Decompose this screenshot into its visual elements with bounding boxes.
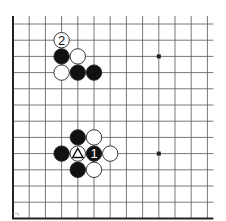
go-board-diagram: 21 <box>0 0 226 221</box>
white-stone: 2 <box>54 33 69 48</box>
diagram-caption: ᄀ <box>12 210 20 221</box>
black-stone <box>54 49 69 64</box>
black-stone <box>70 162 85 177</box>
white-stone <box>86 130 101 145</box>
white-stone <box>70 49 85 64</box>
white-stone <box>103 146 118 161</box>
black-stone <box>86 65 101 80</box>
star-point <box>157 152 161 156</box>
black-stone <box>70 130 85 145</box>
white-stone <box>86 162 101 177</box>
white-stone <box>54 65 69 80</box>
star-point <box>157 54 161 58</box>
move-number: 1 <box>90 146 97 161</box>
black-stone: 1 <box>86 146 101 161</box>
grid-lines <box>12 16 213 218</box>
white-stone <box>70 146 85 161</box>
move-number: 2 <box>58 33 65 48</box>
black-stone <box>70 65 85 80</box>
black-stone <box>54 146 69 161</box>
